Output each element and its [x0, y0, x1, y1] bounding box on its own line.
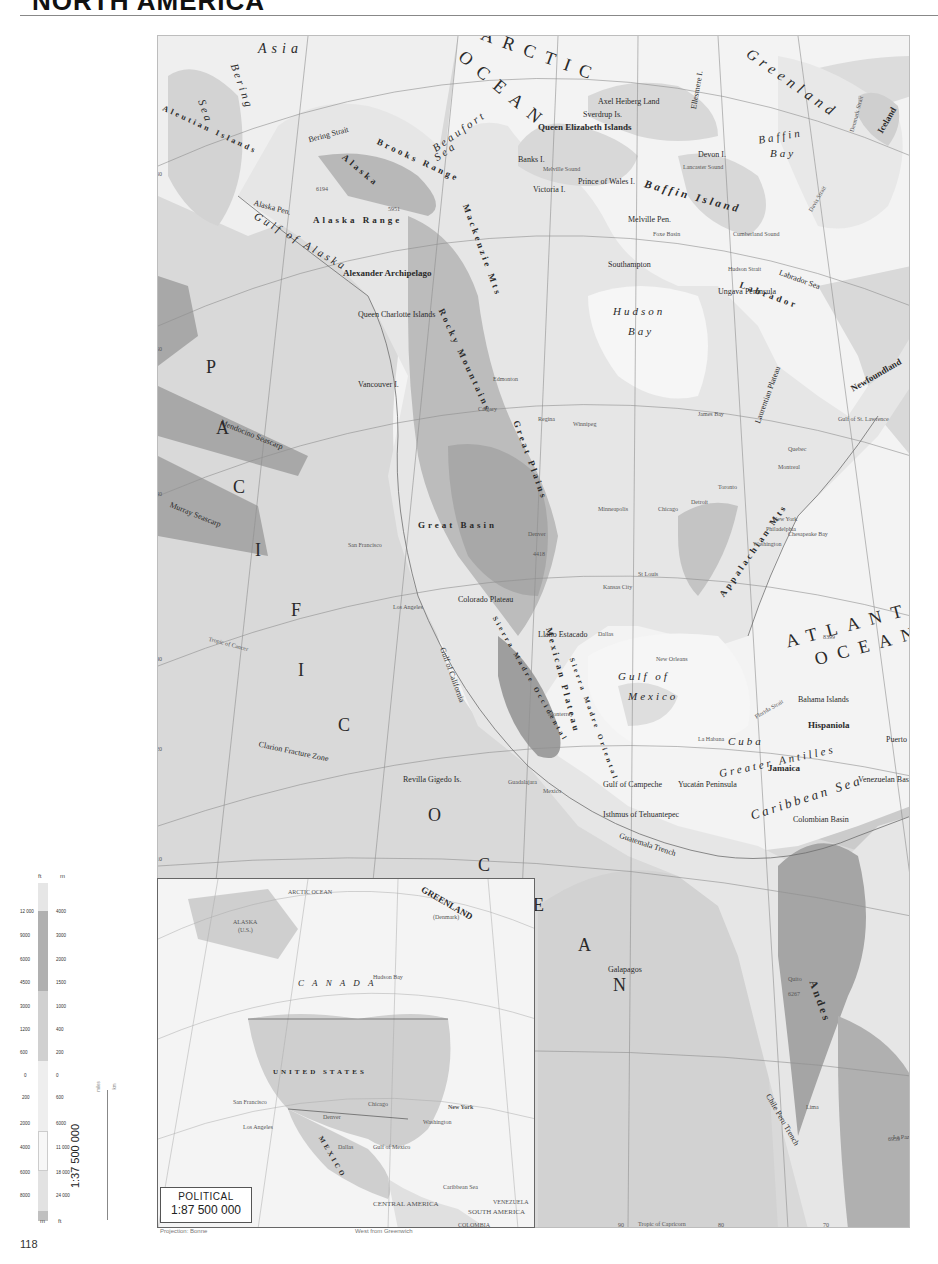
elevation-mark: 8399 — [823, 634, 835, 640]
city-label-guadalajara: Guadalajara — [508, 779, 537, 785]
ocean-label-pacific-c: C — [233, 478, 255, 496]
region-label-colombian-basin: Colombian Basin — [793, 816, 849, 824]
sea-label-hudson-bay: Bay — [628, 326, 654, 337]
legend-tick-m: 2000 — [20, 1121, 30, 1126]
legend-tick-m: 3000 — [56, 933, 66, 938]
city-label-montreal: Montreal — [778, 464, 800, 470]
region-label-queen-elizabeth-islands: Queen Elizabeth Islands — [538, 123, 632, 132]
inset-political-map[interactable]: ARCTIC OCEAN GREENLAND (Denmark) ALASKA … — [157, 878, 535, 1228]
legend-tick-m: 8000 — [20, 1193, 30, 1198]
scale-bar: 1:37 500 000 miles km — [85, 1090, 125, 1230]
legend-tick-m: 0 — [56, 1073, 59, 1078]
inset-label-united-states: UNITED STATES — [273, 1069, 367, 1076]
inset-label-gulf-of-mexico: Gulf of Mexico — [373, 1144, 410, 1150]
legend-tick-ft: 11 000 — [56, 1145, 69, 1150]
inset-label-washington: Washington — [423, 1119, 452, 1125]
ocean-label-pacific-i: I — [255, 541, 271, 559]
region-label-alexander-archipelago: Alexander Archipelago — [343, 269, 431, 278]
city-label-san-francisco: San Francisco — [348, 542, 382, 548]
region-label-puerto-rico: Puerto Rico — [886, 736, 910, 744]
legend-tick-m: 1000 — [56, 1004, 66, 1009]
legend-tick-ft: 600 — [20, 1050, 28, 1055]
legend-tick-m: 1500 — [56, 980, 66, 985]
graticule-label: 40 — [157, 491, 162, 497]
graticule-label: 90 — [618, 1222, 624, 1228]
legend-tick-ft: 4500 — [20, 980, 30, 985]
legend-tick-m: 4000 — [56, 909, 66, 914]
legend-tick-m: 400 — [56, 1027, 64, 1032]
legend-tick-m: 4000 — [20, 1145, 30, 1150]
city-label-edmonton: Edmonton — [493, 376, 518, 382]
scale-miles-label: miles — [96, 1081, 101, 1092]
city-label-la-habana: La Habana — [698, 736, 724, 742]
feature-label-gulf-st-lawrence: Gulf of St. Lawrence — [838, 416, 889, 422]
elevation-mark: 5951 — [388, 206, 400, 212]
legend-tick-ft: 3000 — [20, 1004, 30, 1009]
ocean-label-pacific-a2: A — [578, 936, 601, 954]
city-label-mexico: Mexico — [543, 788, 561, 794]
legend-tick-ft: 1200 — [20, 1027, 30, 1032]
inset-scale: 1:87 500 000 — [161, 1203, 251, 1217]
city-label-winnipeg: Winnipeg — [573, 421, 596, 427]
inset-label-denver: Denver — [323, 1114, 341, 1120]
legend-footer-m: m — [40, 1218, 45, 1224]
sea-label-hudson: Hudson — [613, 306, 665, 317]
legend-tick-ft: 9000 — [20, 933, 30, 938]
legend-band-sea-shallow — [38, 1131, 48, 1171]
sea-label-gulf-of: Gulf of — [618, 671, 670, 682]
inset-title: POLITICAL — [161, 1191, 251, 1202]
graticule-label: 20 — [157, 746, 162, 752]
city-label-washington: Washington — [753, 541, 782, 547]
elevation-mark: 6194 — [316, 186, 328, 192]
region-label-bahama-islands: Bahama Islands — [798, 696, 849, 704]
graticule-label: 60 — [157, 171, 162, 177]
legend-tick-ft: 24 000 — [56, 1193, 70, 1198]
inset-label-los-angeles: Los Angeles — [243, 1124, 273, 1130]
elevation-mark: 6959 — [888, 1136, 900, 1142]
city-label-minneapolis: Minneapolis — [598, 506, 628, 512]
inset-label-hudson-bay: Hudson Bay — [373, 974, 403, 980]
inset-label-south-america: SOUTH AMERICA — [468, 1209, 525, 1216]
region-label-vancouver-i: Vancouver I. — [358, 381, 399, 389]
ocean-label-pacific-e: E — [533, 896, 554, 914]
legend-tick-ft: 0 — [24, 1073, 27, 1078]
city-label-regina: Regina — [538, 416, 555, 422]
city-label-dallas: Dallas — [598, 631, 613, 637]
region-label-venezuelan-basin: Venezuelan Basin — [858, 776, 910, 784]
inset-label-central-america: CENTRAL AMERICA — [373, 1201, 439, 1208]
city-label-philadelphia: Philadelphia — [766, 526, 796, 532]
region-label-devon-i: Devon I. — [698, 151, 726, 159]
ocean-label-pacific-i2: I — [298, 661, 314, 679]
scale-rule — [107, 1090, 108, 1220]
region-label-hispaniola: Hispaniola — [808, 721, 850, 730]
city-label-calgary: Calgary — [478, 406, 497, 412]
region-label-victoria-i: Victoria I. — [533, 186, 565, 194]
legend-band-low — [38, 1061, 48, 1131]
legend-band-top — [38, 883, 48, 911]
graticule-label: 30 — [157, 656, 162, 662]
region-label-asia: Asia — [258, 42, 303, 56]
region-label-southampton: Southampton — [608, 261, 651, 269]
legend-tick-m: 2000 — [56, 957, 66, 962]
inset-label-new-york: New York — [448, 1104, 473, 1110]
region-label-galapagos: Galapagos — [608, 966, 642, 974]
legend-tick-ft: 6000 — [20, 957, 30, 962]
range-label-alaska-range: Alaska Range — [313, 216, 402, 225]
ocean-label-pacific-c2: C — [338, 716, 360, 734]
inset-title-box: POLITICAL 1:87 500 000 — [160, 1187, 252, 1223]
region-label-isthmus: Isthmus of Tehuantepec — [603, 811, 679, 819]
legend-band-mid — [38, 991, 48, 1061]
legend-band-sea-mid — [38, 1171, 48, 1211]
city-label-detroit: Detroit — [691, 499, 708, 505]
city-label-new-orleans: New Orleans — [656, 656, 688, 662]
ocean-label-pacific-f: F — [291, 601, 311, 619]
feature-label-hudson-strait: Hudson Strait — [728, 266, 761, 272]
city-label-chicago: Chicago — [658, 506, 678, 512]
feature-label-james-bay: James Bay — [698, 411, 724, 417]
ocean-label-pacific-p: P — [206, 358, 226, 376]
sea-label-baffin-bay: Bay — [770, 148, 796, 159]
legend-header-m: m — [60, 873, 65, 879]
legend-footer-ft: ft — [58, 1218, 61, 1224]
sea-label-mexico: Mexico — [628, 691, 678, 702]
legend-tick-m: 200 — [22, 1095, 30, 1100]
